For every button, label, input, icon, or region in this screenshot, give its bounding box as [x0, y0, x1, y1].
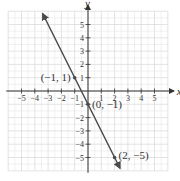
- x-tick-label: 3: [126, 94, 130, 103]
- x-tick-label: −2: [57, 94, 66, 103]
- x-axis-label: x: [176, 85, 180, 97]
- x-tick-label: −5: [17, 94, 26, 103]
- y-tick-label: 2: [80, 60, 84, 69]
- y-axis-label: y: [84, 0, 90, 9]
- y-tick-label: −1: [75, 100, 84, 109]
- point-label: (−1, 1): [41, 71, 71, 84]
- y-tick-label: −3: [75, 127, 84, 136]
- y-tick-label: 4: [80, 34, 84, 43]
- plotted-point: [73, 76, 77, 80]
- axes: [6, 5, 174, 173]
- y-tick-label: 1: [80, 74, 84, 83]
- y-tick-label: 3: [80, 47, 84, 56]
- coordinate-plane-chart: −5−4−3−2−112345−5−4−3−2−112345 (−1, 1)(0…: [0, 0, 180, 181]
- y-tick-label: 5: [80, 21, 84, 30]
- x-tick-label: −3: [44, 94, 53, 103]
- x-tick-label: 5: [153, 94, 157, 103]
- plotted-point: [113, 156, 117, 160]
- point-label: (0, −1): [92, 98, 122, 111]
- point-label: (2, −5): [119, 149, 149, 162]
- x-tick-label: 4: [139, 94, 143, 103]
- plotted-point: [86, 103, 90, 107]
- y-tick-label: −4: [75, 140, 84, 149]
- x-tick-label: −4: [31, 94, 40, 103]
- y-tick-label: −2: [75, 114, 84, 123]
- y-tick-label: −5: [75, 154, 84, 163]
